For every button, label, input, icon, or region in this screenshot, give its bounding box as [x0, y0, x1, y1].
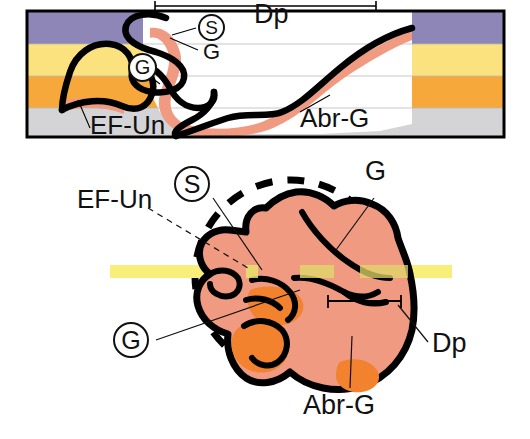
label-abr-g-lower: Abr-G	[303, 392, 375, 419]
label-s-circled-lower: S	[174, 166, 210, 202]
label-g-plain-lower: G	[365, 158, 386, 185]
stratigraphic-cross-section-panel: Dp S G G EF-Un Abr-G	[0, 0, 530, 150]
label-dp-upper: Dp	[254, 1, 289, 28]
clast-detail-panel: EF-Un S G G Dp Abr-G	[0, 150, 530, 439]
figure-root: Dp S G G EF-Un Abr-G	[0, 0, 530, 439]
label-g-circled-upper: G	[128, 53, 157, 82]
label-ef-un-upper: EF-Un	[90, 112, 165, 138]
label-g-plain-upper: G	[203, 41, 220, 63]
label-ef-un-lower: EF-Un	[77, 186, 152, 212]
label-g-circled-lower: G	[113, 322, 149, 358]
label-dp-lower: Dp	[432, 330, 467, 357]
label-s-circled-upper: S	[198, 14, 225, 41]
label-abr-g-upper: Abr-G	[300, 105, 369, 131]
